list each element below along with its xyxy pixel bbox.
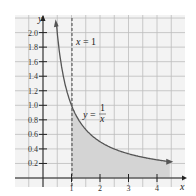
svg-text:1.4: 1.4	[28, 72, 38, 81]
svg-text:1: 1	[70, 184, 74, 193]
svg-text:0.8: 0.8	[28, 116, 38, 125]
svg-text:0.2: 0.2	[28, 159, 38, 168]
curve-label: y =	[82, 109, 96, 120]
svg-text:4: 4	[155, 184, 159, 193]
svg-text:1.8: 1.8	[28, 43, 38, 52]
svg-text:1.0: 1.0	[28, 101, 38, 110]
chart: 0.20.40.60.81.01.21.41.61.82.01234 y x x…	[0, 0, 196, 196]
svg-text:2: 2	[98, 184, 102, 193]
y-axis-label: y	[37, 13, 43, 24]
svg-text:1.2: 1.2	[28, 87, 38, 96]
svg-text:0.4: 0.4	[28, 145, 38, 154]
svg-text:1.6: 1.6	[28, 58, 38, 67]
curve-label-numerator: 1	[100, 102, 105, 113]
x-axis-label: x	[179, 181, 185, 192]
svg-text:2.0: 2.0	[28, 29, 38, 38]
svg-text:0.6: 0.6	[28, 130, 38, 139]
vline-label: x = 1	[75, 36, 96, 47]
curve-label-denominator: x	[99, 113, 105, 124]
svg-text:3: 3	[127, 184, 131, 193]
